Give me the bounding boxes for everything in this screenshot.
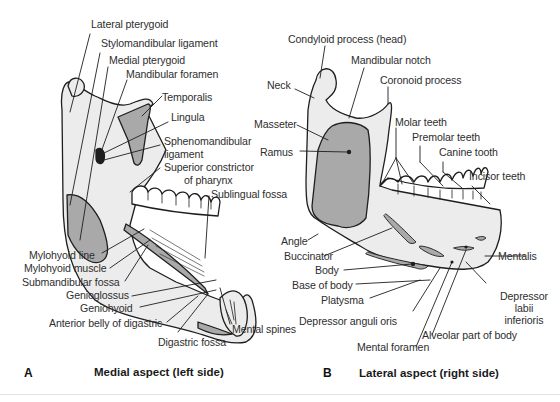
label-genioglossus: Genioglossus (66, 289, 129, 301)
panel-a-letter: A (24, 366, 33, 380)
panel-b-caption: Lateral aspect (right side) (359, 367, 499, 379)
label-premolar-teeth: Premolar teeth (412, 131, 480, 143)
label-buccinator: Buccinator (284, 250, 333, 262)
label-canine-tooth: Canine tooth (439, 146, 498, 158)
label-mylohyoid-muscle: Mylohyoid muscle (24, 262, 107, 274)
label-submandibular-fossa: Submandibular fossa (22, 276, 120, 288)
label-anterior-belly-of-digastric: Anterior belly of digastric (49, 317, 162, 329)
panel-a-caption: Medial aspect (left side) (94, 366, 224, 378)
label-depressor-labii-line3: inferioris (494, 314, 554, 326)
label-digastric-fossa: Digastric fossa (158, 336, 226, 348)
label-condyloid-process: Condyloid process (head) (288, 33, 406, 45)
label-mandibular-foramen: Mandibular foramen (126, 68, 218, 80)
label-depressor-labii-line2: labii (494, 302, 554, 314)
mandible-illustrations (0, 0, 560, 402)
label-geniohyoid: Geniohyoid (80, 302, 133, 314)
label-ramus: Ramus (260, 146, 293, 158)
label-lateral-pterygoid: Lateral pterygoid (91, 18, 168, 30)
label-sublingual-fossa: Sublingual fossa (211, 188, 287, 200)
label-depressor-labii-line1: Depressor (494, 290, 554, 302)
panel-b-letter: B (323, 366, 332, 380)
bottom-divider (0, 394, 560, 395)
label-superior-constrictor-line1: Superior constrictor (164, 161, 254, 173)
label-sphenomandibular-ligament-line2: ligament (164, 148, 203, 160)
label-platysma: Platysma (321, 294, 364, 306)
mandible-anatomy-figure: Lateral pterygoid Stylomandibular ligame… (0, 0, 560, 402)
label-lingula: Lingula (171, 111, 204, 123)
label-angle: Angle (281, 235, 308, 247)
label-temporalis: Temporalis (162, 91, 212, 103)
label-superior-constrictor-line2: of pharynx (184, 174, 232, 186)
label-incisor-teeth: Incisor teeth (469, 170, 525, 182)
label-mental-foramen: Mental foramen (357, 341, 429, 353)
label-stylomandibular-ligament: Stylomandibular ligament (101, 37, 218, 49)
label-base-of-body: Base of body (292, 279, 353, 291)
label-medial-pterygoid: Medial pterygoid (109, 54, 185, 66)
label-mentalis: Mentalis (498, 250, 537, 262)
label-mental-spines: Mental spines (232, 323, 296, 335)
label-neck: Neck (267, 79, 291, 91)
label-masseter: Masseter (254, 118, 297, 130)
label-body: Body (315, 264, 339, 276)
label-coronoid-process: Coronoid process (380, 74, 461, 86)
label-sphenomandibular-ligament-line1: Sphenomandibular (164, 135, 251, 147)
label-depressor-anguli-oris: Depressor anguli oris (299, 315, 397, 327)
label-mylohyoid-line: Mylohyoid line (29, 249, 95, 261)
label-mandibular-notch: Mandibular notch (351, 54, 431, 66)
label-molar-teeth: Molar teeth (395, 116, 447, 128)
label-alveolar-part-of-body: Alveolar part of body (422, 329, 517, 341)
